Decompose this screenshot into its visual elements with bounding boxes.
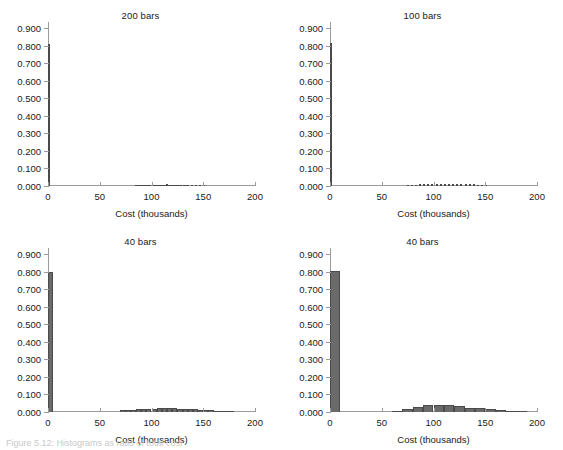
x-axis-tick <box>152 182 153 186</box>
y-axis-tick <box>44 342 49 343</box>
histogram-bar <box>456 184 458 186</box>
y-axis-tick-label: 0.600 <box>299 75 323 86</box>
y-axis-tick-label: 0.900 <box>299 249 323 260</box>
x-axis-title: Cost (thousands) <box>330 208 537 219</box>
histogram-bar <box>415 185 417 186</box>
y-axis-tick <box>44 116 49 117</box>
y-axis-tick <box>326 324 331 325</box>
y-axis-tick-label: 0.100 <box>17 163 41 174</box>
histogram-bar <box>434 405 444 412</box>
y-axis-tick <box>326 46 331 47</box>
x-axis-tick-label: 50 <box>94 191 105 202</box>
y-axis-tick-label: 0.000 <box>17 181 41 192</box>
y-axis-tick-label: 0.800 <box>299 266 323 277</box>
y-axis-tick <box>44 98 49 99</box>
x-axis-tick-label: 150 <box>195 417 211 428</box>
y-axis-tick <box>326 116 331 117</box>
x-axis-tick <box>537 182 538 186</box>
y-axis-tick <box>326 412 331 413</box>
y-axis-tick <box>326 98 331 99</box>
histogram-panel-40-bars-left: 40 bars Cost (thousands) 0.0000.1000.200… <box>0 228 281 450</box>
histogram-bar <box>444 405 454 412</box>
x-axis-tick-label: 0 <box>327 417 332 428</box>
x-axis-tick <box>330 182 331 186</box>
histogram-bar <box>330 43 332 186</box>
y-axis-tick <box>44 394 49 395</box>
y-axis-tick <box>326 307 331 308</box>
y-axis-tick <box>326 254 331 255</box>
x-axis-tick-label: 0 <box>45 191 50 202</box>
y-axis-tick-label: 0.400 <box>17 336 41 347</box>
x-axis-tick-label: 200 <box>247 191 263 202</box>
y-axis-tick-label: 0.000 <box>299 181 323 192</box>
y-axis-tick-label: 0.700 <box>17 284 41 295</box>
histogram-bar <box>516 411 526 412</box>
y-axis-tick-label: 0.500 <box>17 319 41 330</box>
histogram-bar <box>460 184 462 186</box>
y-axis-tick-label: 0.200 <box>17 145 41 156</box>
x-axis-tick <box>255 408 256 412</box>
y-axis-tick-label: 0.400 <box>299 336 323 347</box>
y-axis-tick-label: 0.600 <box>17 301 41 312</box>
x-axis-tick <box>485 408 486 412</box>
y-axis-tick-label: 0.800 <box>299 40 323 51</box>
histogram-bar <box>477 185 479 186</box>
x-axis-tick <box>537 408 538 412</box>
x-axis-title: Cost (thousands) <box>48 208 255 219</box>
y-axis-tick-label: 0.000 <box>17 407 41 418</box>
y-axis-tick <box>44 289 49 290</box>
y-axis-tick <box>44 307 49 308</box>
y-axis-tick-label: 0.200 <box>299 145 323 156</box>
histogram-bar <box>496 410 506 412</box>
y-axis-tick <box>44 272 49 273</box>
histogram-bar <box>465 408 475 412</box>
histogram-bar <box>413 407 423 412</box>
histogram-bar <box>427 184 429 186</box>
histogram-bar <box>229 411 234 412</box>
y-axis-tick <box>44 377 49 378</box>
y-axis-tick-label: 0.700 <box>299 58 323 69</box>
histogram-bar <box>485 409 495 412</box>
histogram-bar <box>448 184 450 186</box>
panel-title: 40 bars <box>0 236 281 247</box>
x-axis-tick-label: 150 <box>477 191 493 202</box>
y-axis-tick <box>326 186 331 187</box>
y-axis-tick-label: 0.900 <box>299 23 323 34</box>
panel-title: 40 bars <box>282 236 563 247</box>
x-axis-tick <box>382 408 383 412</box>
x-axis-tick <box>434 408 435 412</box>
x-axis-tick <box>100 182 101 186</box>
y-axis-tick-label: 0.200 <box>17 371 41 382</box>
histogram-bar <box>407 185 409 186</box>
histogram-bar <box>452 184 454 186</box>
y-axis-tick <box>326 28 331 29</box>
y-axis-tick-label: 0.600 <box>17 75 41 86</box>
histogram-bar <box>330 271 340 412</box>
x-axis-tick <box>382 182 383 186</box>
histogram-bar <box>436 184 438 186</box>
y-axis-tick <box>326 168 331 169</box>
y-axis-tick <box>44 81 49 82</box>
y-axis-tick <box>44 151 49 152</box>
x-axis-tick <box>48 182 49 186</box>
y-axis-tick-label: 0.500 <box>17 93 41 104</box>
plot-area: Cost (thousands) 0.0000.1000.2000.3000.4… <box>330 254 537 412</box>
y-axis-tick-label: 0.100 <box>299 163 323 174</box>
x-axis-tick-label: 150 <box>477 417 493 428</box>
y-axis-tick <box>44 359 49 360</box>
y-axis-tick <box>326 342 331 343</box>
x-axis-tick-label: 0 <box>45 417 50 428</box>
x-axis-tick <box>152 408 153 412</box>
bars-layer <box>330 28 537 186</box>
y-axis-tick <box>44 133 49 134</box>
x-axis-tick <box>330 408 331 412</box>
x-axis-tick <box>48 408 49 412</box>
histogram-bar <box>454 406 464 412</box>
y-axis-tick-label: 0.400 <box>17 110 41 121</box>
y-axis-tick-label: 0.800 <box>17 266 41 277</box>
plot-area: Cost (thousands) 0.0000.1000.2000.3000.4… <box>330 28 537 186</box>
x-axis-tick-label: 150 <box>195 191 211 202</box>
y-axis-tick-label: 0.500 <box>299 319 323 330</box>
x-axis-tick <box>434 182 435 186</box>
x-axis-tick <box>485 182 486 186</box>
